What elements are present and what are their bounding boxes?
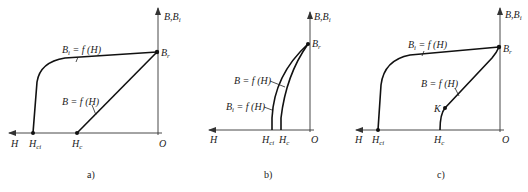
br-point xyxy=(155,50,159,54)
normal-curve-label: B = f (H) xyxy=(62,96,100,108)
panel-caption: a) xyxy=(87,169,95,181)
y-axis-label: B,Bi xyxy=(314,11,331,24)
panel-a: B,Bi Br Bi = f (H) B = f (H) H Hci Hc O … xyxy=(9,8,181,181)
hci-label: Hci xyxy=(371,134,384,147)
intrinsic-label-leader xyxy=(264,107,272,110)
br-point xyxy=(306,42,310,46)
normal-curve xyxy=(77,52,157,133)
demagnetization-curves-figure: B,Bi Br Bi = f (H) B = f (H) H Hci Hc O … xyxy=(0,0,528,192)
hci-point xyxy=(376,128,380,132)
panel-caption: c) xyxy=(437,169,445,181)
br-label: Br xyxy=(161,47,170,60)
hci-label: Hci xyxy=(28,138,41,151)
normal-curve-label: B = f (H) xyxy=(421,78,459,90)
panel-caption: b) xyxy=(264,169,272,181)
origin-label: O xyxy=(159,138,166,149)
intrinsic-curve-label: Bi = f (H) xyxy=(226,101,266,114)
x-axis-label: H xyxy=(209,134,218,145)
br-label: Br xyxy=(503,43,512,56)
intrinsic-curve xyxy=(272,44,308,130)
y-axis-label: B,Bi xyxy=(505,9,522,22)
intrinsic-curve-label: Bi = f (H) xyxy=(408,39,448,52)
origin-label: O xyxy=(311,134,318,145)
hc-point xyxy=(75,131,79,135)
normal-curve-label: B = f (H) xyxy=(234,75,272,87)
br-point xyxy=(497,45,501,49)
hci-point xyxy=(31,131,35,135)
br-label: Br xyxy=(312,38,321,51)
panel-b: B,Bi Br B = f (H) Bi = f (H) H Hci Hc O … xyxy=(209,11,331,181)
panel-c: B,Bi Br Bi = f (H) B = f (H) K H Hci Hc … xyxy=(354,8,522,181)
normal-label-leader xyxy=(270,81,285,87)
hci-label: Hci xyxy=(261,134,274,147)
hc-label: Hc xyxy=(278,134,290,147)
hc-label: Hc xyxy=(433,134,445,147)
intrinsic-curve xyxy=(33,52,157,133)
intrinsic-curve-label: Bi = f (H) xyxy=(62,44,102,57)
x-axis-label: H xyxy=(354,134,363,145)
k-point xyxy=(443,106,447,110)
k-label: K xyxy=(433,103,442,114)
y-axis-label: B,Bi xyxy=(164,11,181,24)
x-axis-label: H xyxy=(10,138,19,149)
hc-label: Hc xyxy=(71,138,83,151)
normal-curve xyxy=(281,44,308,130)
origin-label: O xyxy=(502,134,509,145)
